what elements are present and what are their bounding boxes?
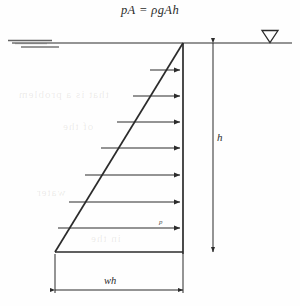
water-surface-hatch-marks: [8, 41, 59, 48]
depth-dimension: h: [213, 43, 223, 252]
depth-dimension-label: h: [217, 131, 223, 143]
figure-canvas: pA = ρgAh that is a problem of the water…: [0, 0, 300, 306]
base-dimension-label: wh: [104, 275, 116, 286]
water-table-triangle-icon: [262, 31, 278, 43]
base-dimension: wh: [55, 254, 183, 293]
pressure-diagram-svg: p h wh: [0, 0, 300, 306]
pressure-label: p: [158, 218, 163, 226]
